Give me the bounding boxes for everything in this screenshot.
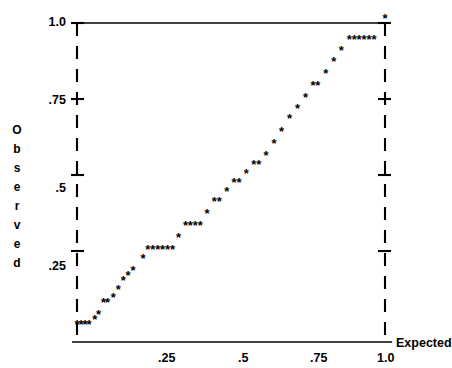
data-point-marker: *	[131, 263, 137, 278]
data-point-marker: *	[315, 78, 321, 93]
data-point-marker: *	[198, 218, 204, 233]
y-axis-title-letter: e	[14, 178, 21, 197]
y-axis-title-letter: v	[14, 216, 21, 235]
data-point-marker: *	[339, 43, 345, 58]
y-axis-title-letter: b	[13, 140, 20, 159]
x-tick-label-025: .25	[158, 351, 175, 365]
data-point-marker: *	[371, 32, 377, 47]
data-point-marker: *	[287, 111, 293, 126]
data-point-marker: *	[323, 66, 329, 81]
y-tick-label-025: .25	[49, 259, 66, 273]
data-point-marker: *	[176, 230, 182, 245]
x-tick-label-1: 1.0	[377, 351, 394, 365]
data-point-marker: *	[236, 175, 242, 190]
y-axis-title-letter: O	[12, 121, 21, 140]
data-point-marker: *	[204, 206, 210, 221]
x-tick-label-075: .75	[310, 351, 327, 365]
x-tick-label-05: .5	[238, 351, 248, 365]
data-point-marker: *	[217, 194, 223, 209]
data-point-marker: *	[331, 54, 337, 69]
data-point-marker: *	[224, 184, 230, 199]
y-tick-label-05: .5	[56, 181, 66, 195]
x-axis-title: Expected	[396, 336, 452, 350]
y-axis-title-letter: e	[14, 235, 21, 254]
y-axis-title: O b s e r v e d	[8, 121, 26, 273]
data-point-marker: *	[272, 136, 278, 151]
y-axis-title-letter: s	[14, 159, 21, 178]
plot-data-points: ****************************************…	[74, 11, 388, 332]
y-axis-title-letter: r	[15, 197, 20, 216]
data-point-marker: *	[303, 90, 309, 105]
data-point-marker: *	[256, 157, 262, 172]
y-axis-title-letter: d	[13, 254, 20, 273]
y-tick-label-1: 1.0	[49, 15, 66, 29]
data-point-marker: *	[295, 101, 301, 116]
data-point-marker: *	[279, 124, 285, 139]
data-point-marker: *	[264, 148, 270, 163]
y-tick-label-075: .75	[49, 93, 66, 107]
data-point-marker: *	[170, 242, 176, 257]
data-point-marker: *	[244, 166, 250, 181]
